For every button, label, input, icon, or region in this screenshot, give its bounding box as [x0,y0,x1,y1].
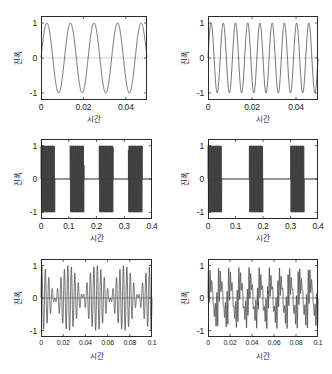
y-tick-label: 1 [186,18,204,28]
y-tick-label: 1 [186,261,204,271]
y-axis-label: 진폭 [179,283,190,313]
plot-area-middle-left [41,139,152,219]
x-tick-label: 0.04 [79,339,92,346]
x-axis-label: 시간 [41,113,147,124]
y-tick-label: 1 [186,141,204,151]
x-tick-label: 0.1 [313,339,322,346]
y-axis-label: 진폭 [12,283,23,313]
x-tick-label: 0.4 [146,221,157,231]
plot-area-top-left [41,16,147,100]
waveform-trace [208,146,318,213]
y-tick-label: -1 [19,326,37,336]
waveform-trace [208,23,318,93]
x-tick-label: 0 [206,339,210,346]
x-tick-label: 0.1 [147,339,156,346]
y-axis-label: 진폭 [12,164,23,194]
y-axis-label: 진폭 [179,164,190,194]
plot-area-bottom-right [208,259,318,337]
y-axis-label: 진폭 [179,43,190,73]
waveform-svg [41,259,152,337]
y-tick-label: 1 [19,261,37,271]
waveform-svg [41,139,152,219]
x-tick-label: 0.2 [91,221,102,231]
x-tick-label: 0.02 [224,339,237,346]
x-tick-label: 0.02 [76,102,92,112]
x-axis-label: 시간 [208,350,318,361]
waveform-svg [41,16,147,100]
x-axis-label: 시간 [41,232,152,243]
x-tick-label: 0.4 [312,221,323,231]
x-tick-label: 0.04 [118,102,134,112]
x-axis-label: 시간 [208,232,318,243]
x-tick-label: 0.06 [268,339,281,346]
x-tick-label: 0.1 [63,221,74,231]
x-axis-label: 시간 [41,350,152,361]
figure-panel: -10100.020.04진폭시간-10100.020.04진폭시간-10100… [0,0,332,374]
x-tick-label: 0.1 [230,221,241,231]
x-tick-label: 0.02 [57,339,70,346]
x-tick-label: 0 [206,221,211,231]
x-tick-label: 0.04 [288,102,304,112]
plot-area-bottom-left [41,259,152,337]
x-tick-label: 0.08 [290,339,303,346]
waveform-trace [41,146,152,213]
plot-area-middle-right [208,139,318,219]
x-tick-label: 0.06 [101,339,114,346]
y-tick-label: -1 [19,88,37,98]
x-tick-label: 0 [39,339,43,346]
y-tick-label: -1 [186,326,204,336]
x-tick-label: 0.08 [123,339,136,346]
waveform-svg [208,139,318,219]
x-tick-label: 0.3 [119,221,130,231]
x-tick-label: 0.02 [244,102,260,112]
x-tick-label: 0.04 [246,339,259,346]
x-tick-label: 0 [206,102,211,112]
x-axis-label: 시간 [208,113,318,124]
y-axis-label: 진폭 [12,43,23,73]
y-tick-label: -1 [19,207,37,217]
x-tick-label: 0.3 [285,221,296,231]
x-tick-label: 0 [39,102,44,112]
waveform-svg [208,259,318,337]
y-tick-label: 1 [19,141,37,151]
plot-area-top-right [208,16,318,100]
y-tick-label: -1 [186,88,204,98]
y-tick-label: -1 [186,207,204,217]
x-tick-label: 0.2 [257,221,268,231]
y-tick-label: 1 [19,18,37,28]
x-tick-label: 0 [39,221,44,231]
waveform-svg [208,16,318,100]
